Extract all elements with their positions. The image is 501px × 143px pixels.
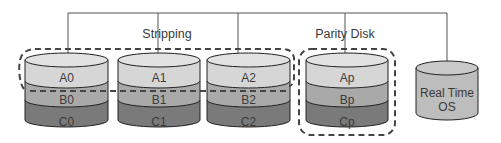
os-label-line1: Real Time xyxy=(420,86,474,100)
block-c1: C1 xyxy=(151,115,167,129)
block-a0: A0 xyxy=(59,71,74,85)
block-b1: B1 xyxy=(152,93,167,107)
block-c2: C2 xyxy=(241,115,257,129)
stripping-label: Stripping xyxy=(142,27,191,41)
block-b2: B2 xyxy=(241,93,256,107)
block-ap: Ap xyxy=(340,71,355,85)
block-bp: Bp xyxy=(340,93,355,107)
real-time-os-disk: Real Time OS xyxy=(416,61,478,120)
disk-2: A2 B2 C2 xyxy=(207,53,290,129)
os-label-line2: OS xyxy=(438,100,455,114)
parity-disk-label: Parity Disk xyxy=(315,27,375,41)
block-a2: A2 xyxy=(241,71,256,85)
block-c0: C0 xyxy=(59,115,75,129)
raid-diagram: Stripping Parity Disk A0 B0 C0 A1 B1 C1 … xyxy=(0,0,501,143)
block-cp: Cp xyxy=(339,115,355,129)
parity-disk: Ap Bp Cp xyxy=(306,53,388,129)
block-a1: A1 xyxy=(152,71,167,85)
block-b0: B0 xyxy=(59,93,74,107)
